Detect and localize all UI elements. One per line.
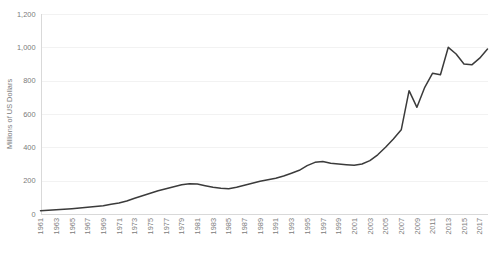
x-tick-label: 1997	[319, 218, 328, 234]
x-tick-label: 1963	[52, 218, 61, 234]
x-tick-label: 1979	[177, 218, 186, 234]
y-axis-tick-labels: 02004006008001,0001,200	[17, 10, 36, 219]
x-tick-label: 2017	[475, 218, 484, 234]
x-tick-label: 2005	[381, 218, 390, 234]
y-tick-label: 200	[23, 176, 35, 185]
x-tick-label: 1987	[240, 218, 249, 234]
x-axis-tick-labels: 1961196319651967196919711973197519771979…	[36, 218, 484, 234]
x-tick-label: 2011	[428, 218, 437, 234]
x-tick-label: 1975	[146, 218, 155, 234]
series-line-0	[41, 47, 488, 210]
x-tick-label: 1965	[68, 218, 77, 234]
y-tick-label: 800	[23, 76, 35, 85]
x-tick-label: 2015	[460, 218, 469, 234]
y-axis-title-group: Millions of US Dollars	[5, 79, 14, 150]
x-tick-label: 1977	[162, 218, 171, 234]
x-tick-label: 2001	[350, 218, 359, 234]
x-tick-label: 1985	[224, 218, 233, 234]
y-tick-label: 400	[23, 143, 35, 152]
x-tick-label: 1981	[193, 218, 202, 234]
chart-canvas: 02004006008001,0001,200 1961196319651967…	[0, 0, 492, 261]
y-tick-label: 1,200	[17, 10, 36, 19]
y-tick-label: 0	[31, 210, 35, 219]
data-series-group	[41, 47, 488, 210]
y-tick-label: 1,000	[17, 43, 36, 52]
x-tick-label: 1993	[287, 218, 296, 234]
x-tick-label: 1991	[271, 218, 280, 234]
y-axis-title: Millions of US Dollars	[5, 79, 14, 150]
x-tick-label: 1967	[83, 218, 92, 234]
line-chart-figure: 02004006008001,0001,200 1961196319651967…	[0, 0, 492, 261]
x-tick-label: 1961	[36, 218, 45, 234]
x-tick-label: 1999	[334, 218, 343, 234]
x-tick-label: 2013	[444, 218, 453, 234]
x-tick-label: 1973	[130, 218, 139, 234]
x-tick-label: 2007	[397, 218, 406, 234]
x-tick-label: 1983	[209, 218, 218, 234]
x-tick-label: 2009	[413, 218, 422, 234]
x-tick-label: 1995	[303, 218, 312, 234]
x-tick-label: 1971	[115, 218, 124, 234]
x-tick-label: 1989	[256, 218, 265, 234]
x-tick-label: 1969	[99, 218, 108, 234]
x-tick-label: 2003	[366, 218, 375, 234]
y-tick-label: 600	[23, 110, 35, 119]
